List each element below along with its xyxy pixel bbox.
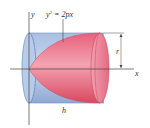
equation-label: y2 = 2px	[45, 10, 73, 19]
height-label: h	[62, 106, 66, 115]
x-axis-label: x	[134, 69, 139, 78]
paraboloid-in-cylinder-diagram: y x y2 = 2px r h	[0, 0, 150, 128]
radius-label: r	[116, 47, 120, 56]
y-axis-label: y	[30, 10, 35, 19]
